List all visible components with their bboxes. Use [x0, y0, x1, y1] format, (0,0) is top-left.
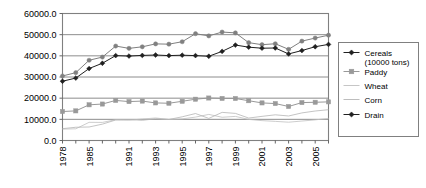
- data-point-marker: [100, 61, 105, 66]
- x-axis-tick-label: 2001: [257, 147, 267, 167]
- data-point-marker: [60, 79, 65, 84]
- legend-label: Cereals: [365, 49, 393, 58]
- x-axis-tick-label: 1978: [58, 147, 68, 167]
- data-point-marker: [180, 99, 184, 103]
- legend-label: Wheat: [365, 82, 389, 91]
- data-point-marker: [247, 41, 251, 45]
- x-axis-tick-label: 1991: [124, 147, 134, 167]
- data-point-marker: [273, 42, 277, 46]
- data-point-marker: [167, 101, 171, 105]
- data-point-marker: [220, 96, 224, 100]
- data-point-marker: [113, 53, 118, 58]
- y-axis-tick-label: 20000.0: [24, 93, 57, 103]
- chart-container: 60000.050000.040000.030000.020000.010000…: [0, 0, 426, 188]
- y-axis-tick-label: 0.0: [44, 136, 57, 146]
- data-point-marker: [140, 45, 144, 49]
- data-point-marker: [233, 96, 237, 100]
- data-point-marker: [167, 53, 172, 58]
- data-point-marker: [193, 97, 197, 101]
- data-point-marker: [114, 98, 118, 102]
- data-point-marker: [273, 101, 277, 105]
- data-point-marker: [273, 46, 278, 51]
- data-point-marker: [153, 53, 158, 58]
- data-point-marker: [154, 42, 158, 46]
- data-point-marker: [87, 58, 91, 62]
- data-point-marker: [326, 100, 330, 104]
- data-point-marker: [326, 33, 330, 37]
- x-axis-tick-label: 1995: [178, 147, 188, 167]
- data-point-marker: [140, 99, 144, 103]
- data-point-marker: [100, 55, 104, 59]
- x-axis-ticks: [63, 141, 329, 144]
- data-point-marker: [300, 48, 305, 53]
- x-axis-tick-label: 1985: [85, 147, 95, 167]
- x-axis-tick-label: 1997: [204, 147, 214, 167]
- chart-legend: Cereals(10000 tons)PaddyWheatCornDrain: [339, 43, 419, 137]
- data-point-marker: [193, 53, 198, 58]
- legend-label: Paddy: [365, 68, 388, 77]
- data-point-marker: [287, 47, 291, 51]
- line-chart-svg: 60000.050000.040000.030000.020000.010000…: [0, 0, 426, 188]
- data-point-marker: [260, 101, 264, 105]
- data-point-marker: [300, 39, 304, 43]
- data-point-marker: [260, 46, 265, 51]
- y-axis-tick-label: 10000.0: [24, 115, 57, 125]
- data-series-group: [60, 30, 331, 129]
- legend-label: Corn: [365, 96, 382, 105]
- data-point-marker: [207, 96, 211, 100]
- y-axis-tick-label: 60000.0: [24, 9, 57, 19]
- x-axis-tick-label: 1999: [231, 147, 241, 167]
- data-point-marker: [167, 42, 171, 46]
- data-point-marker: [60, 109, 64, 113]
- series-line: [63, 114, 329, 129]
- data-point-marker: [206, 54, 211, 59]
- data-point-marker: [193, 32, 197, 36]
- legend-label: Drain: [365, 111, 384, 120]
- data-point-marker: [300, 100, 304, 104]
- data-point-marker: [233, 43, 238, 48]
- data-point-marker: [287, 104, 291, 108]
- data-point-marker: [246, 45, 251, 50]
- y-axis-tick-label: 50000.0: [24, 30, 57, 40]
- data-point-marker: [233, 31, 237, 35]
- x-axis-tick-label: 2003: [284, 147, 294, 167]
- data-point-marker: [127, 99, 131, 103]
- data-point-marker: [140, 53, 145, 58]
- legend-label-sub: (10000 tons): [365, 58, 410, 67]
- y-axis-tick-label: 40000.0: [24, 51, 57, 61]
- data-point-marker: [220, 49, 225, 54]
- data-point-marker: [74, 109, 78, 113]
- data-point-marker: [247, 99, 251, 103]
- data-point-marker: [154, 101, 158, 105]
- data-point-marker: [326, 42, 331, 47]
- data-point-marker: [220, 30, 224, 34]
- data-point-marker: [87, 103, 91, 107]
- y-axis-tick-label: 30000.0: [24, 72, 57, 82]
- x-axis-labels: 1978198519911993199519971999200120032005: [58, 147, 321, 167]
- data-point-marker: [207, 34, 211, 38]
- data-point-marker: [127, 46, 131, 50]
- series-wheat: [63, 114, 329, 129]
- data-point-marker: [313, 100, 317, 104]
- data-point-marker: [60, 74, 64, 78]
- x-axis-tick-label: 2005: [311, 147, 321, 167]
- data-point-marker: [180, 40, 184, 44]
- data-point-marker: [180, 53, 185, 58]
- data-point-marker: [127, 54, 132, 59]
- data-point-marker: [114, 44, 118, 48]
- data-point-marker: [313, 36, 317, 40]
- x-axis-tick-label: 1993: [151, 147, 161, 167]
- data-point-marker: [100, 102, 104, 106]
- legend-marker-icon: [349, 69, 354, 74]
- data-point-marker: [74, 71, 78, 75]
- data-point-marker: [313, 44, 318, 49]
- y-axis-labels: 60000.050000.040000.030000.020000.010000…: [24, 9, 57, 146]
